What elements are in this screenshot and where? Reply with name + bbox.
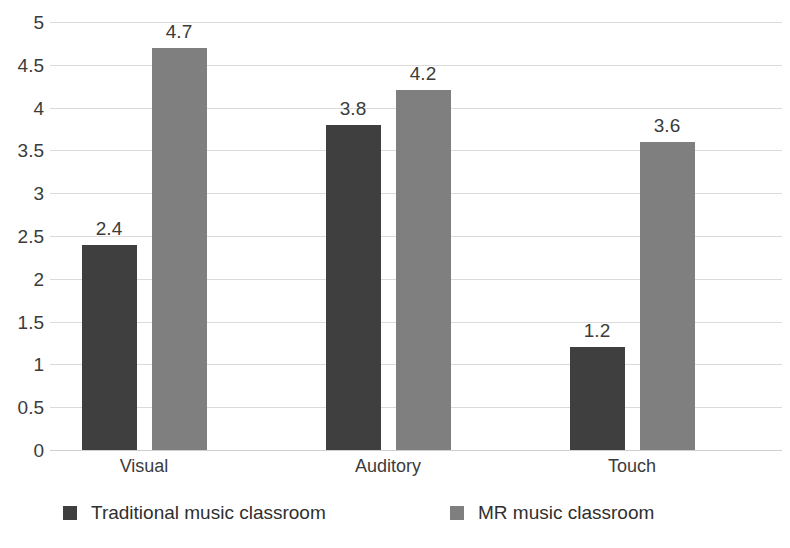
- bar-value-label: 3.8: [340, 99, 366, 118]
- gridline: [50, 450, 782, 451]
- y-axis-tick-label: 0: [33, 441, 44, 460]
- bar: [396, 90, 451, 450]
- legend-swatch-icon: [63, 506, 77, 520]
- y-axis-tick-label: 1.5: [18, 312, 44, 331]
- bar: [326, 125, 381, 450]
- bar: [152, 48, 207, 450]
- y-axis-tick-label: 2.5: [18, 227, 44, 246]
- x-axis-category-label: Visual: [120, 455, 169, 477]
- bar: [82, 245, 137, 450]
- x-axis-category-labels: VisualAuditoryTouch: [50, 455, 782, 481]
- bar: [640, 142, 695, 450]
- y-axis-tick-label: 0.5: [18, 398, 44, 417]
- y-axis-tick-label: 5: [33, 13, 44, 32]
- y-axis-tick-label: 2: [33, 269, 44, 288]
- y-axis-tick-label: 4: [33, 98, 44, 117]
- legend-swatch-icon: [450, 506, 464, 520]
- bars-layer: 2.44.73.84.21.23.6: [50, 22, 782, 450]
- bar-value-label: 2.4: [96, 219, 122, 238]
- y-axis-tick-label: 1: [33, 355, 44, 374]
- y-axis-tick-labels: 54.543.532.521.510.50: [0, 22, 44, 450]
- bar-value-label: 1.2: [584, 321, 610, 340]
- legend-label: Traditional music classroom: [91, 502, 326, 524]
- bar-chart: 54.543.532.521.510.50 2.44.73.84.21.23.6…: [0, 0, 790, 548]
- y-axis-tick-label: 4.5: [18, 55, 44, 74]
- chart-legend: Traditional music classroomMR music clas…: [0, 498, 790, 538]
- bar: [570, 347, 625, 450]
- x-axis-category-label: Auditory: [355, 455, 421, 477]
- y-axis-tick-label: 3: [33, 184, 44, 203]
- bar-value-label: 3.6: [654, 116, 680, 135]
- y-axis-tick-label: 3.5: [18, 141, 44, 160]
- x-axis-category-label: Touch: [608, 455, 656, 477]
- legend-item[interactable]: MR music classroom: [450, 498, 654, 528]
- bar-value-label: 4.2: [410, 64, 436, 83]
- plot-area: 2.44.73.84.21.23.6: [50, 22, 782, 450]
- legend-label: MR music classroom: [478, 502, 654, 524]
- bar-value-label: 4.7: [166, 22, 192, 41]
- legend-item[interactable]: Traditional music classroom: [63, 498, 326, 528]
